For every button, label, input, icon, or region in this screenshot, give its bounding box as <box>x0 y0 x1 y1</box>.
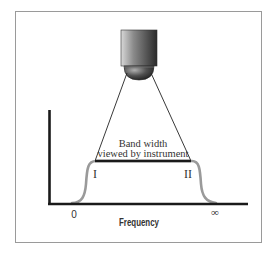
x-tick-zero: 0 <box>71 209 77 220</box>
bandwidth-diagram: Band width viewed by instrument I II 0 ∞… <box>0 0 278 258</box>
region-left-label: I <box>93 167 97 181</box>
region-right-label: II <box>184 167 192 181</box>
x-tick-infinity: ∞ <box>211 206 219 218</box>
band-width-subtitle: viewed by instrument <box>98 148 189 159</box>
x-axis-label: Frequency <box>119 217 159 228</box>
instrument-camera-icon <box>121 30 157 80</box>
